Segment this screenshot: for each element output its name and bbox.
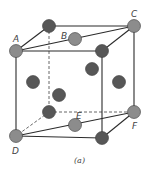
atom-d <box>10 130 23 143</box>
label-e: E <box>76 111 82 121</box>
atom-front-bottom-right <box>96 132 109 145</box>
atom-back-top-left <box>43 20 56 33</box>
label-c: C <box>131 9 138 19</box>
atoms <box>10 20 141 145</box>
atom-a <box>10 45 23 58</box>
atom-f <box>128 106 141 119</box>
atom-front-face-center <box>53 89 66 102</box>
atom-front-top-right <box>96 45 109 58</box>
atom-b <box>69 33 82 46</box>
label-f: F <box>132 121 138 131</box>
atom-left-face-center <box>27 76 40 89</box>
label-d: D <box>12 146 19 156</box>
label-b: B <box>61 31 67 41</box>
atom-right-face-center <box>113 76 126 89</box>
fcc-unit-cell-diagram: A B C D E F (a) <box>0 0 152 176</box>
label-a: A <box>12 34 19 44</box>
atom-back-face-center <box>86 63 99 76</box>
atom-c <box>128 20 141 33</box>
figure-caption: (a) <box>74 156 85 165</box>
atom-back-bottom-left <box>43 106 56 119</box>
